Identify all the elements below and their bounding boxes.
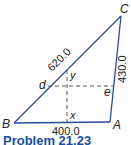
problem-caption: Problem 21.23 [3, 133, 91, 145]
point-label-y: y [69, 69, 77, 81]
vertex-label-C: C [120, 2, 129, 16]
vertex-label-B: B [2, 117, 10, 131]
triangle-diagram: B A C d e x y 620.0 430.0 400.0 [0, 0, 131, 145]
point-label-e: e [104, 85, 111, 99]
point-label-d: d [39, 78, 46, 92]
side-BA [14, 122, 110, 123]
side-length-CA: 430.0 [116, 55, 128, 83]
vertex-label-A: A [112, 118, 121, 132]
point-label-x: x [69, 109, 76, 121]
